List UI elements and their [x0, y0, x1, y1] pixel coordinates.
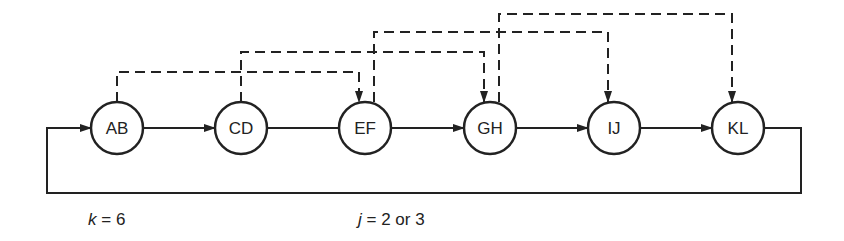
caption-j-value: 2 or 3 [381, 210, 424, 229]
node-label: CD [229, 119, 254, 138]
node-label: IJ [607, 119, 620, 138]
node-CD: CD [215, 102, 267, 154]
dashed-edge-EF-IJ [374, 32, 608, 102]
caption-j: j = 2 or 3 [358, 210, 425, 230]
node-GH: GH [464, 102, 516, 154]
dashed-edge-AB-EF [117, 72, 359, 102]
dashed-edge-GH-KL [499, 14, 732, 102]
node-KL: KL [712, 102, 764, 154]
node-IJ: IJ [588, 102, 640, 154]
caption-k: k = 6 [88, 210, 125, 230]
dashed-edge-CD-GH [241, 52, 484, 102]
node-label: GH [477, 119, 503, 138]
ring-diagram: ABCDEFGHIJKL [0, 0, 844, 241]
caption-j-equals: = [362, 210, 381, 229]
node-AB: AB [91, 102, 143, 154]
edge-KL-AB [47, 128, 801, 193]
node-label: AB [106, 119, 129, 138]
node-label: KL [728, 119, 749, 138]
node-EF: EF [339, 102, 391, 154]
caption-k-equals: = [97, 210, 116, 229]
caption-k-value: 6 [116, 210, 125, 229]
caption-k-variable: k [88, 210, 97, 229]
node-label: EF [354, 119, 376, 138]
dashed-edges [117, 14, 732, 102]
loop-back-edge [47, 128, 801, 193]
